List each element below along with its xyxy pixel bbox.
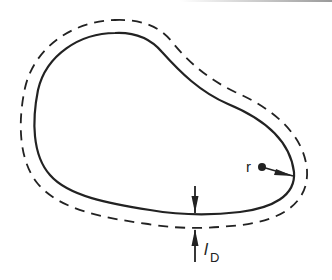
label-r: r	[246, 158, 251, 175]
diagram-canvas: r l D	[0, 0, 332, 280]
label-l-subscript-d: D	[210, 250, 219, 265]
arrow-up-icon	[192, 229, 199, 262]
arrow-down-icon	[192, 186, 199, 213]
label-l: l	[204, 240, 209, 259]
point-r-marker	[258, 163, 293, 176]
solid-boundary-curve	[34, 33, 294, 214]
